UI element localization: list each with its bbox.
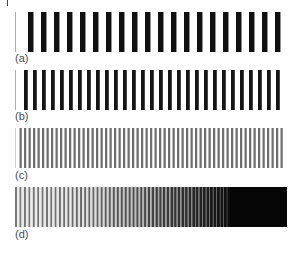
panel-label-b: (b) — [15, 110, 28, 122]
grating-pattern-c — [15, 128, 287, 168]
grating-strip-b — [15, 70, 287, 110]
corner-tick-mark — [7, 0, 8, 6]
grating-pattern-d — [15, 187, 287, 227]
grating-pattern-a — [15, 12, 287, 52]
panel-label-d: (d) — [15, 228, 28, 240]
panel-label-a: (a) — [15, 52, 28, 64]
panel-label-c: (c) — [15, 169, 28, 181]
grating-strip-c — [15, 128, 287, 168]
grating-strip-d — [15, 187, 287, 227]
grating-pattern-b — [15, 70, 287, 110]
grating-strip-a — [15, 12, 287, 52]
